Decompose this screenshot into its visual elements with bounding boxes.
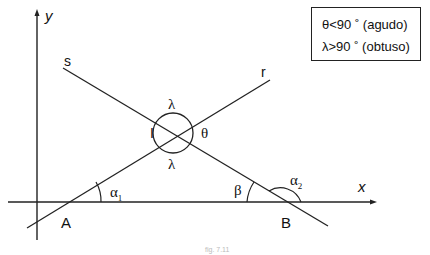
angle-arc-beta	[247, 182, 254, 202]
angle-lambda-top-label: λ	[168, 97, 175, 111]
y-axis-label: y	[45, 9, 53, 23]
line-r-label: r	[261, 65, 266, 79]
x-axis-arrow-icon	[370, 200, 377, 205]
point-a-label: A	[61, 216, 71, 230]
angle-beta-label: β	[234, 183, 242, 197]
legend-row-obtuse: λ>90 ˚ (obtuso)	[322, 39, 410, 54]
point-b-label: B	[281, 216, 291, 230]
legend-row-acute: θ<90 ˚ (agudo)	[322, 17, 408, 32]
x-axis-label: x	[358, 180, 366, 194]
line-r	[27, 80, 270, 228]
angle-alpha2-label: α2	[290, 173, 302, 193]
angle-alpha1-label: α1	[110, 185, 122, 205]
figure-caption: fig. 7.11	[205, 246, 229, 253]
point-i-label: I	[150, 126, 154, 140]
angle-legend-box: θ<90 ˚ (agudo) λ>90 ˚ (obtuso)	[311, 7, 421, 61]
angle-theta-label: θ	[201, 126, 208, 140]
y-axis-arrow-icon	[35, 9, 40, 16]
angle-lambda-bottom-label: λ	[168, 157, 175, 171]
line-s-label: s	[64, 54, 71, 68]
